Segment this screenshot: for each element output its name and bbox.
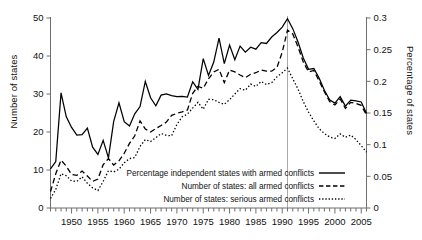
y-axis-left-tick-label: 0 <box>38 202 43 213</box>
x-axis-tick-label: 1980 <box>219 216 240 227</box>
x-axis-tick-label: 1985 <box>245 216 266 227</box>
legend-entry: Number of states: serious armed conflict… <box>163 195 345 204</box>
chart-legend: Percentage independent states with armed… <box>126 169 345 204</box>
y-axis-left-tick-label: 30 <box>33 88 44 99</box>
y-axis-right-tick-label: 0.15 <box>374 107 393 118</box>
x-axis-tick-label: 1990 <box>272 216 293 227</box>
x-axis-tick-label: 1960 <box>114 216 135 227</box>
x-axis-tick-label: 1965 <box>140 216 161 227</box>
x-axis-tick-label: 1975 <box>193 216 214 227</box>
legend-label: Number of states: serious armed conflict… <box>163 195 314 204</box>
x-axis-tick-label: 1995 <box>298 216 319 227</box>
y-axis-left-tick-label: 50 <box>33 12 44 23</box>
x-axis-tick-label: 1970 <box>166 216 187 227</box>
legend-label: Number of states: all armed conflicts <box>182 182 314 191</box>
legend-entry: Number of states: all armed conflicts <box>182 182 345 191</box>
y-axis-left-tick-label: 40 <box>33 50 44 61</box>
y-axis-left-tick-label: 20 <box>33 126 44 137</box>
y-axis-right-tick-label: 0.25 <box>374 44 393 55</box>
legend-entry: Percentage independent states with armed… <box>126 169 345 178</box>
x-axis-tick-label: 2000 <box>324 216 345 227</box>
x-axis-tick-label: 1950 <box>61 216 82 227</box>
y-axis-right-tick-label: 0 <box>374 202 379 213</box>
series-solid <box>51 19 367 169</box>
x-axis-tick-label: 2005 <box>351 216 372 227</box>
series-dotted <box>51 68 367 198</box>
line-chart-plot: 0102030405000.050.10.150.20.250.31950195… <box>0 0 422 240</box>
y-axis-right-tick-label: 0.1 <box>374 139 387 150</box>
chart-figure: Number of states Percentage of states 01… <box>0 0 422 240</box>
y-axis-right-tick-label: 0.2 <box>374 76 387 87</box>
series-dashed <box>51 30 367 192</box>
x-axis-tick-label: 1955 <box>87 216 108 227</box>
y-axis-right-tick-label: 0.05 <box>374 171 393 182</box>
legend-label: Percentage independent states with armed… <box>126 169 314 178</box>
y-axis-right-tick-label: 0.3 <box>374 12 387 23</box>
y-axis-left-tick-label: 10 <box>33 164 44 175</box>
